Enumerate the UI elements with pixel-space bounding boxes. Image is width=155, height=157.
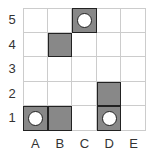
filled-cell-b4 [48, 33, 73, 58]
row-label-3: 3 [6, 57, 18, 82]
filled-cell-b1 [48, 106, 73, 131]
circle-icon [28, 111, 43, 126]
col-label-d: D [97, 136, 122, 151]
col-label-e: E [121, 136, 146, 151]
row-label-1: 1 [6, 106, 18, 131]
circle-icon [102, 111, 117, 126]
col-label-b: B [48, 136, 73, 151]
col-label-c: C [72, 136, 97, 151]
circle-icon [77, 13, 92, 28]
filled-cell-d1 [97, 106, 122, 131]
filled-cell-a1 [23, 106, 48, 131]
row-label-5: 5 [6, 8, 18, 33]
row-label-4: 4 [6, 33, 18, 58]
grid-board [23, 8, 146, 131]
filled-cell-d2 [97, 82, 122, 107]
col-label-a: A [23, 136, 48, 151]
row-label-2: 2 [6, 82, 18, 107]
filled-cell-c5 [72, 8, 97, 33]
